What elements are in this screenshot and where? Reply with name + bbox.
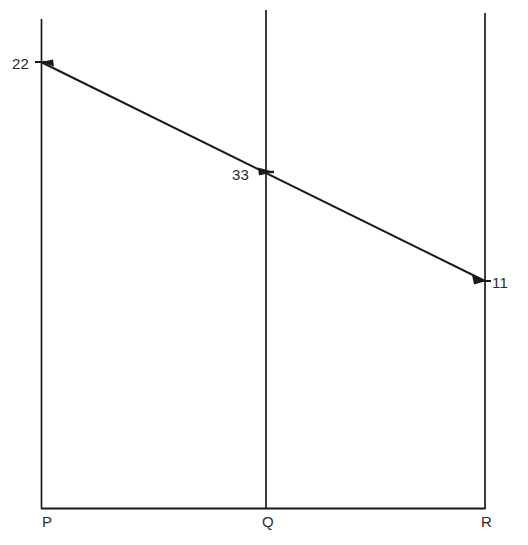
point-label-r: R <box>481 514 492 529</box>
value-label-r: 11 <box>492 275 508 290</box>
diagram-canvas: 22 33 11 P Q R <box>0 0 528 545</box>
line-diagram-svg <box>0 0 528 545</box>
point-label-p: P <box>42 514 52 529</box>
point-label-q: Q <box>262 514 274 529</box>
marker-p-intersection <box>35 60 54 67</box>
marker-r-intersection <box>472 275 491 285</box>
value-label-p: 22 <box>12 56 29 71</box>
value-label-q: 33 <box>232 167 249 182</box>
